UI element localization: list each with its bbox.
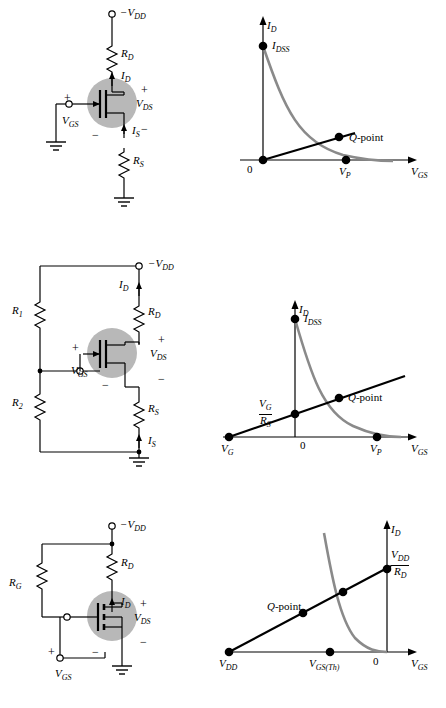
vgs-axis-label: VGS — [411, 658, 428, 672]
vgs-label: VGS — [71, 365, 88, 379]
row-voltage-divider: −VDD R1 R2 ID RD + VDS − VGS + − RS IS I… — [0, 240, 446, 475]
vgsth-label: VGS(Th) — [309, 658, 339, 672]
minus-sign-vgs: − — [92, 129, 99, 141]
vgs-axis-label: VGS — [411, 166, 428, 180]
id-label: ID — [119, 279, 128, 293]
self-bias-jfet-circuit: −VDD RD ID + VDS − VGS + − IS RS — [0, 0, 215, 230]
minus-sign-vds: − — [140, 636, 147, 648]
vdd-label: −VDD — [120, 519, 146, 533]
minus-sign-vgs: − — [102, 379, 109, 391]
vp-label: VP — [370, 443, 382, 457]
vdd-label: VDD — [219, 658, 237, 672]
q-point-label: Q-point — [349, 131, 383, 143]
origin-label: 0 — [373, 656, 379, 667]
vdd-over-rd-label: VDD RD — [391, 549, 409, 580]
voltage-divider-bias-circuit: −VDD R1 R2 ID RD + VDS − VGS + − RS IS — [0, 240, 215, 475]
drain-feedback-bias-circuit: −VDD RD RG ID + VDS − VGS + − — [0, 500, 215, 708]
rd-label: RD — [148, 306, 161, 320]
idss-label: IDSS — [272, 40, 289, 54]
figure-page: −VDD RD ID + VDS − VGS + − IS RS ID IDSS… — [0, 0, 446, 708]
minus-sign-vds: − — [158, 373, 165, 385]
id-label: ID — [121, 596, 130, 610]
vdd-label: −VDD — [148, 258, 174, 272]
vgs-axis-label: VGS — [411, 443, 428, 457]
vg-label: VG — [221, 443, 234, 457]
self-bias-graph: ID IDSS Q-point VP 0 VGS — [215, 0, 446, 230]
vgs-label: VGS — [62, 115, 79, 129]
id-axis-label: ID — [391, 524, 400, 538]
rs-label: RS — [133, 155, 144, 169]
q-point-label: Q-point — [267, 600, 301, 612]
plus-sign-vgs: + — [72, 342, 79, 354]
rd-label: RD — [121, 557, 134, 571]
r1-label: R1 — [12, 305, 23, 319]
vds-label: VDS — [150, 348, 167, 362]
minus-sign-vgs: − — [92, 646, 99, 658]
vg-over-rs-label: VG RS — [259, 398, 272, 429]
plus-sign-vgs: + — [48, 646, 55, 658]
id-axis-label: ID — [267, 20, 276, 34]
vgs-label: VGS — [55, 668, 72, 682]
voltage-divider-graph: ID IDSS VG RS Q-point 0 VG VP VGS — [215, 240, 446, 475]
q-point-label: Q-point — [348, 391, 382, 403]
rg-label: RG — [9, 577, 22, 591]
r2-label: R2 — [12, 397, 23, 411]
rs-label: RS — [148, 403, 159, 417]
vds-label: VDS — [134, 612, 151, 626]
plus-sign-vgs: + — [64, 92, 71, 104]
vdd-label: −VDD — [120, 7, 146, 21]
plus-sign-vds: + — [140, 598, 147, 610]
vp-label: VP — [339, 166, 351, 180]
is-label: IS — [148, 435, 156, 449]
minus-sign-vds: − — [141, 123, 148, 135]
idss-label: IDSS — [304, 313, 321, 327]
plus-sign-vds: + — [141, 84, 148, 96]
origin-label: 0 — [300, 440, 306, 451]
is-label: IS — [132, 125, 140, 139]
row-self-bias: −VDD RD ID + VDS − VGS + − IS RS ID IDSS… — [0, 0, 446, 230]
drain-feedback-graph: ID VDD RD Q-point VDD VGS(Th) 0 VGS — [215, 500, 446, 708]
id-label: ID — [121, 70, 130, 84]
origin-label: 0 — [247, 164, 253, 175]
vds-label: VDS — [136, 98, 153, 112]
rd-label: RD — [121, 48, 134, 62]
plus-sign-vds: + — [158, 334, 165, 346]
row-drain-feedback: −VDD RD RG ID + VDS − VGS + − ID VDD RD — [0, 500, 446, 708]
